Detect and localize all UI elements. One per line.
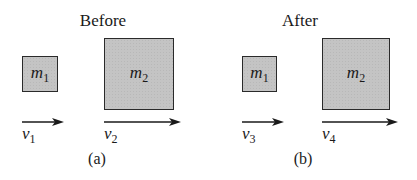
mass-label-m1: m1 <box>31 64 49 84</box>
mass-label-m1: m1 <box>250 64 268 84</box>
mass-block-m2-after: m2 <box>322 38 390 110</box>
mass-block-m1-before: m1 <box>22 56 58 92</box>
mass-label-m2: m2 <box>347 64 365 84</box>
caption-b: (b) <box>294 151 313 167</box>
velocity-label-v3: v3 <box>242 125 256 145</box>
velocity-label-v1: v1 <box>22 125 36 145</box>
caption-a: (a) <box>88 151 106 167</box>
velocity-label-v2: v2 <box>104 125 118 145</box>
mass-label-m2: m2 <box>130 64 148 84</box>
heading-after: After <box>282 12 318 29</box>
mass-block-m1-after: m1 <box>242 56 277 92</box>
velocity-label-v4: v4 <box>322 125 336 145</box>
mass-block-m2-before: m2 <box>104 38 174 110</box>
heading-before: Before <box>80 12 126 29</box>
